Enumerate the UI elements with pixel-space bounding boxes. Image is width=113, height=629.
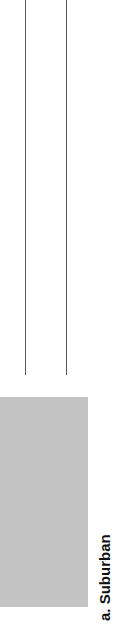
figure-image-placeholder [0, 397, 88, 607]
figure-caption: a. Suburban [97, 534, 112, 621]
vertical-rule-left [25, 0, 26, 375]
vertical-rule-right [66, 0, 67, 375]
